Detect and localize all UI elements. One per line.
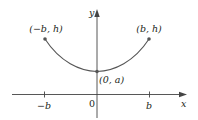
tick-label-b: b <box>146 100 152 111</box>
x-axis-arrow-icon <box>179 92 187 97</box>
point-label-neg-b-h: (−b, h) <box>29 23 63 34</box>
point-label-0-a: (0, a) <box>99 74 124 85</box>
origin-label: 0 <box>89 98 95 109</box>
point-neg-b-h <box>43 37 47 41</box>
x-axis-label: x <box>181 98 187 109</box>
point-0-a <box>95 70 99 74</box>
point-b-h <box>147 37 151 41</box>
point-label-b-h: (b, h) <box>136 23 162 34</box>
y-axis-arrow-icon <box>94 9 99 17</box>
catenary-diagram: y x 0 −b b (−b, h) (b, h) (0, a) <box>0 0 198 120</box>
y-axis-label: y <box>88 7 95 18</box>
tick-label-neg-b: −b <box>37 100 51 111</box>
